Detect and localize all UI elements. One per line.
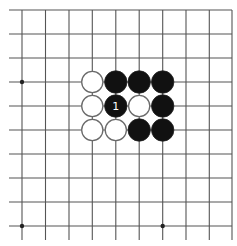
star-point-icon <box>20 224 24 228</box>
move-number-label: 1 <box>112 100 119 113</box>
star-point-icon <box>161 224 165 228</box>
black-stone[interactable] <box>152 119 174 141</box>
white-stone-icon <box>105 119 126 140</box>
white-stone[interactable] <box>82 119 103 140</box>
star-point-icon <box>20 80 24 84</box>
black-stone-icon <box>152 119 174 141</box>
white-stone-icon <box>82 71 103 92</box>
white-stone-icon <box>82 95 103 116</box>
white-stone[interactable] <box>82 95 103 116</box>
black-stone-icon <box>105 71 127 93</box>
white-stone-icon <box>129 95 150 116</box>
white-stone-icon <box>82 119 103 140</box>
black-stone[interactable] <box>152 71 174 93</box>
black-stone-icon <box>128 119 150 141</box>
black-stone-icon <box>152 71 174 93</box>
black-stone[interactable] <box>152 95 174 117</box>
black-stone[interactable] <box>128 119 150 141</box>
black-stone[interactable] <box>105 71 127 93</box>
white-stone[interactable] <box>129 95 150 116</box>
black-stone[interactable] <box>128 71 150 93</box>
black-stone-icon <box>152 95 174 117</box>
go-board[interactable]: 1 <box>0 0 237 246</box>
black-stone-icon <box>128 71 150 93</box>
white-stone[interactable] <box>105 119 126 140</box>
white-stone[interactable] <box>82 71 103 92</box>
black-stone[interactable]: 1 <box>105 95 127 117</box>
